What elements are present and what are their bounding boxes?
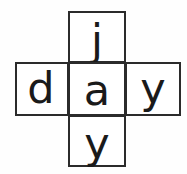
- cell-letter-top: j: [91, 19, 103, 62]
- cell-letter-center: a: [84, 69, 110, 112]
- cell-bottom[interactable]: y: [68, 115, 126, 167]
- cell-right[interactable]: y: [125, 62, 181, 116]
- cell-top[interactable]: j: [68, 11, 126, 63]
- letter-cross-diagram: j d a y y: [0, 0, 187, 174]
- cell-letter-bottom: y: [84, 122, 109, 165]
- cell-letter-left: d: [27, 67, 54, 110]
- cell-left[interactable]: d: [15, 62, 69, 116]
- cell-center[interactable]: a: [68, 62, 126, 116]
- cell-letter-right: y: [140, 67, 165, 110]
